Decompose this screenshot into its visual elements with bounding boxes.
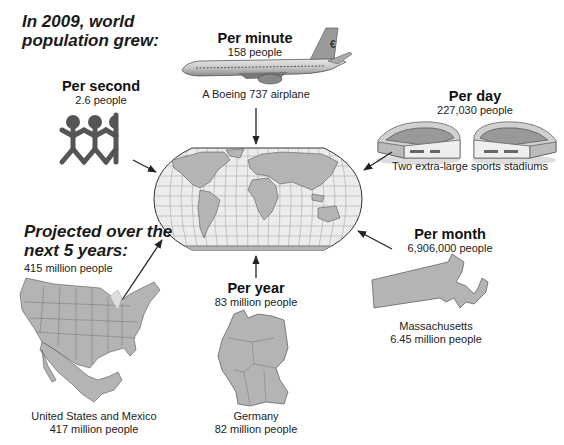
arrow-per-day <box>364 152 392 170</box>
us-mexico-caption-line2: 417 million people <box>14 423 174 436</box>
projection-line1: Projected over the <box>24 222 172 241</box>
projection-value: 415 million people <box>24 262 113 275</box>
massachusetts-caption-line2: 6.45 million people <box>376 333 496 346</box>
arrow-per-month <box>358 231 392 249</box>
per-month-block: Per month 6,906,000 people <box>390 226 510 255</box>
arrow-per-second <box>133 160 156 172</box>
germany-caption: Germany 82 million people <box>196 410 316 436</box>
per-year-block: Per year 83 million people <box>196 280 316 309</box>
germany-caption-line1: Germany <box>196 410 316 423</box>
per-year-label: Per year <box>196 280 316 296</box>
projection-heading: Projected over the next 5 years: <box>24 222 172 260</box>
germany-map-icon <box>214 308 298 408</box>
per-month-label: Per month <box>390 226 510 242</box>
massachusetts-caption: Massachusetts 6.45 million people <box>376 320 496 346</box>
massachusetts-map-icon <box>370 252 490 316</box>
us-mexico-caption: United States and Mexico 417 million peo… <box>14 410 174 436</box>
germany-caption-line2: 82 million people <box>196 423 316 436</box>
us-mexico-map-icon <box>14 276 164 412</box>
us-mexico-caption-line1: United States and Mexico <box>14 410 174 423</box>
massachusetts-caption-line1: Massachusetts <box>376 320 496 333</box>
projection-line2: next 5 years: <box>24 241 172 260</box>
